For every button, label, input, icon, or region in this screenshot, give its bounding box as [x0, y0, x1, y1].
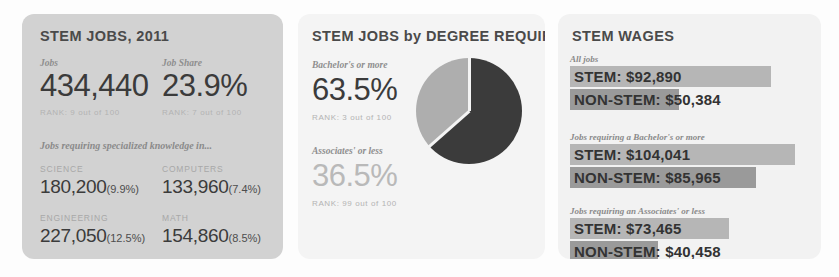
card-stem-jobs-title: STEM JOBS, 2011 [40, 28, 169, 44]
breakdown-pct-1: (7.4%) [229, 183, 261, 195]
breakdown-value-2: 227,050(12.5%) [40, 225, 145, 247]
degree-segment-rank-1: RANK: 99 out of 100 [312, 199, 397, 208]
degree-pie-chart [416, 58, 522, 164]
breakdown-pct-3: (8.5%) [229, 232, 261, 244]
breakdown-number-0: 180,200 [40, 176, 107, 197]
jobs-stat-value-1: 23.9% [162, 70, 247, 101]
degree-segment-label-1: Associates' or less [312, 146, 397, 156]
wage-group-label-2: Jobs requiring an Associates' or less [570, 206, 810, 216]
jobs-stat-rank-1: RANK: 7 out of 100 [162, 108, 242, 117]
infographic-stage: STEM JOBS, 2011 Jobs 434,440 RANK: 9 out… [0, 0, 839, 277]
wage-group-2: Jobs requiring an Associates' or less ST… [570, 206, 810, 259]
card-stem-jobs: STEM JOBS, 2011 Jobs 434,440 RANK: 9 out… [22, 14, 283, 259]
jobs-stat-rank-0: RANK: 9 out of 100 [40, 108, 120, 117]
card-degree-required: STEM JOBS by DEGREE REQUIRED Bachelor's … [298, 14, 545, 259]
degree-segment-value-0: 63.5% [312, 74, 397, 105]
breakdown-number-1: 133,960 [162, 176, 229, 197]
breakdown-pct-0: (9.9%) [107, 183, 139, 195]
card-stem-wages: STEM WAGES All jobs STEM: $92,890 NON-ST… [558, 14, 821, 259]
wage-bar-1-1: NON-STEM: $85,965 [570, 167, 810, 188]
degree-segment-0: Bachelor's or more 63.5% RANK: 3 out of … [312, 60, 397, 122]
wage-bar-0-1: NON-STEM: $50,384 [570, 89, 810, 110]
wage-bar-label-1-0: STEM: $104,041 [570, 144, 810, 165]
jobs-breakdown-label: Jobs requiring specialized knowledge in.… [40, 140, 212, 151]
degree-segment-label-0: Bachelor's or more [312, 60, 397, 70]
wage-bar-0-0: STEM: $92,890 [570, 66, 810, 87]
wage-group-label-0: All jobs [570, 54, 810, 64]
breakdown-value-0: 180,200(9.9%) [40, 176, 139, 198]
breakdown-category-1: COMPUTERS [162, 164, 224, 174]
jobs-stat-label-0: Jobs [40, 58, 58, 68]
wage-bar-label-2-1: NON-STEM: $40,458 [570, 241, 810, 259]
breakdown-category-0: SCIENCE [40, 164, 83, 174]
wage-bar-2-0: STEM: $73,465 [570, 218, 810, 239]
wage-group-0: All jobs STEM: $92,890 NON-STEM: $50,384 [570, 54, 810, 112]
wage-bar-label-0-1: NON-STEM: $50,384 [570, 89, 810, 110]
degree-segment-1: Associates' or less 36.5% RANK: 99 out o… [312, 146, 397, 208]
pie-separator-top [468, 58, 471, 111]
breakdown-category-3: MATH [162, 213, 189, 223]
wage-group-label-1: Jobs requiring a Bachelor's or more [570, 132, 810, 142]
jobs-stat-label-1: Job Share [162, 58, 202, 68]
breakdown-value-3: 154,860(8.5%) [162, 225, 261, 247]
jobs-stat-value-0: 434,440 [40, 70, 149, 101]
wage-bar-label-0-0: STEM: $92,890 [570, 66, 810, 87]
wage-bar-2-1: NON-STEM: $40,458 [570, 241, 810, 259]
breakdown-pct-2: (12.5%) [107, 232, 146, 244]
card-degree-title: STEM JOBS by DEGREE REQUIRED [312, 28, 545, 44]
wage-group-1: Jobs requiring a Bachelor's or more STEM… [570, 132, 810, 190]
wage-bar-label-1-1: NON-STEM: $85,965 [570, 167, 810, 188]
card-stem-wages-title: STEM WAGES [572, 28, 674, 44]
breakdown-number-2: 227,050 [40, 225, 107, 246]
breakdown-number-3: 154,860 [162, 225, 229, 246]
degree-segment-rank-0: RANK: 3 out of 100 [312, 113, 397, 122]
degree-segment-value-1: 36.5% [312, 160, 397, 191]
breakdown-category-2: ENGINEERING [40, 213, 108, 223]
wage-bar-1-0: STEM: $104,041 [570, 144, 810, 165]
breakdown-value-1: 133,960(7.4%) [162, 176, 261, 198]
wage-bar-label-2-0: STEM: $73,465 [570, 218, 810, 239]
